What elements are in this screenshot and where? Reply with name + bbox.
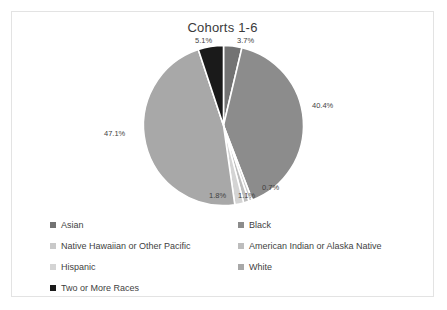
chart-legend: Asian Black Native Hawaiian or Other Pac… — [36, 218, 416, 290]
legend-item-two-or-more-races[interactable]: Two or More Races — [50, 281, 139, 295]
legend-item-white[interactable]: White — [238, 260, 272, 274]
legend-swatch-asian — [50, 222, 56, 228]
legend-swatch-white — [238, 264, 244, 270]
data-label-white: 47.1% — [104, 129, 125, 138]
legend-label-asian: Asian — [61, 221, 84, 230]
data-label-black: 40.4% — [312, 101, 333, 110]
data-label-hispanic: 1.8% — [209, 191, 226, 200]
data-label-native-hawaiian: 0.7% — [262, 183, 279, 192]
legend-label-american-indian-or-alaska-native: American Indian or Alaska Native — [249, 242, 382, 251]
legend-label-two-or-more-races: Two or More Races — [61, 284, 139, 293]
legend-swatch-american-indian-or-alaska-native — [238, 243, 244, 249]
pie-slices-group — [143, 46, 303, 206]
data-label-asian: 3.7% — [237, 36, 254, 45]
legend-swatch-native-hawaiian-or-other-pacific — [50, 243, 56, 249]
chart-card: Cohorts 1-6 5.1% 3.7% 40.4% 47.1% 0.7% 1… — [11, 11, 434, 297]
legend-item-american-indian-or-alaska-native[interactable]: American Indian or Alaska Native — [238, 239, 382, 253]
legend-label-hispanic: Hispanic — [61, 263, 96, 272]
data-label-american-indian: 1.1% — [238, 191, 255, 200]
data-label-two-or-more-races: 5.1% — [195, 36, 212, 45]
pie-chart-svg — [12, 38, 435, 213]
pie-chart-area: 5.1% 3.7% 40.4% 47.1% 0.7% 1.1% 1.8% — [12, 38, 435, 213]
legend-swatch-two-or-more-races — [50, 285, 56, 291]
chart-title: Cohorts 1-6 — [12, 20, 433, 35]
legend-swatch-hispanic — [50, 264, 56, 270]
legend-swatch-black — [238, 222, 244, 228]
legend-label-black: Black — [249, 221, 271, 230]
legend-label-white: White — [249, 263, 272, 272]
legend-label-native-hawaiian-or-other-pacific: Native Hawaiian or Other Pacific — [61, 242, 191, 251]
legend-item-native-hawaiian-or-other-pacific[interactable]: Native Hawaiian or Other Pacific — [50, 239, 191, 253]
legend-item-hispanic[interactable]: Hispanic — [50, 260, 96, 274]
legend-item-black[interactable]: Black — [238, 218, 271, 232]
legend-item-asian[interactable]: Asian — [50, 218, 84, 232]
